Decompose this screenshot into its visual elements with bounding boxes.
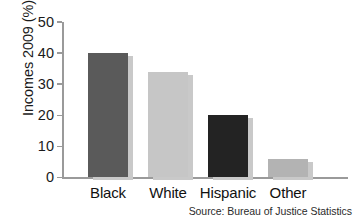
y-tick-mark — [57, 115, 62, 116]
y-tick-label: 10 — [38, 138, 54, 154]
plot-area: 50403020100 BlackWhiteHispanicOther — [62, 22, 348, 179]
bar-fill — [208, 115, 248, 177]
bar-fill — [148, 72, 188, 178]
source-note: Source: Bureau of Justice Statistics — [189, 205, 352, 217]
y-tick-label: 50 — [38, 14, 54, 30]
bar-fill — [268, 159, 308, 178]
y-tick-label: 20 — [38, 107, 54, 123]
bar-white — [148, 72, 188, 178]
bar-black — [88, 53, 128, 177]
bar-hispanic — [208, 115, 248, 177]
y-axis-line — [62, 22, 64, 179]
category-label-hispanic: Hispanic — [200, 184, 256, 201]
y-tick-label: 30 — [38, 76, 54, 92]
y-tick-label: 0 — [46, 169, 54, 185]
bar-chart-figure: Incomes 2009 (%) 50403020100 BlackWhiteH… — [0, 0, 358, 221]
y-tick-mark — [57, 177, 62, 178]
category-label-other: Other — [270, 184, 307, 201]
category-label-black: Black — [90, 184, 126, 201]
bar-fill — [88, 53, 128, 177]
y-tick-label: 40 — [38, 45, 54, 61]
y-tick-mark — [57, 21, 62, 22]
y-tick-mark — [57, 52, 62, 53]
y-tick-mark — [57, 146, 62, 147]
category-label-white: White — [149, 184, 187, 201]
y-tick-mark — [57, 83, 62, 84]
y-axis-title: Incomes 2009 (%) — [18, 0, 38, 138]
bar-other — [268, 159, 308, 178]
